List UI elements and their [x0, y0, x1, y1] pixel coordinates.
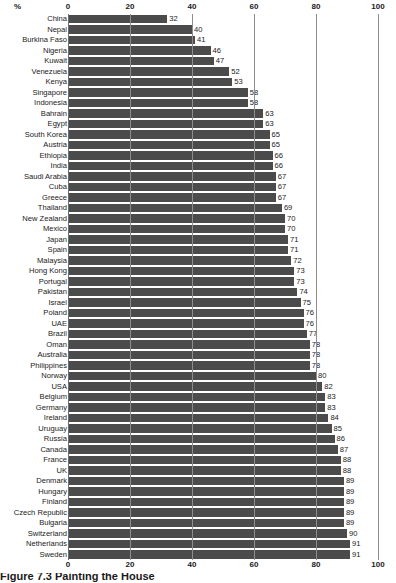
bar	[68, 246, 288, 254]
x-axis-tick-bottom-60: 60	[250, 560, 259, 569]
bar	[68, 109, 263, 117]
x-axis-tick-top-40: 40	[188, 2, 197, 11]
x-axis-tick-top-20: 20	[126, 2, 135, 11]
bar	[68, 508, 344, 516]
bar	[68, 477, 344, 485]
bar	[68, 298, 301, 306]
bar-row: Greece67	[0, 193, 396, 204]
category-label: Venezuela	[32, 67, 67, 78]
bar-value-label: 83	[327, 403, 335, 414]
bar-value-label: 40	[194, 25, 202, 36]
bar-value-label: 89	[346, 487, 354, 498]
category-label: Czech Republic	[14, 508, 67, 519]
category-label: Oman	[46, 340, 67, 351]
category-label: Singapore	[32, 88, 67, 99]
bar-row: New Zealand70	[0, 214, 396, 225]
category-label: Nigeria	[43, 46, 67, 57]
category-label: Sweden	[40, 550, 67, 561]
bar-value-label: 70	[287, 214, 295, 225]
bar	[68, 204, 282, 212]
bar-row: Uruguay85	[0, 424, 396, 435]
bar-value-label: 71	[290, 245, 298, 256]
bar-value-label: 65	[272, 130, 280, 141]
category-label: USA	[51, 382, 67, 393]
bar-row: Russia86	[0, 434, 396, 445]
bar-row: Cuba67	[0, 182, 396, 193]
category-label: Uruguay	[38, 424, 67, 435]
bar-row: Nepal40	[0, 25, 396, 36]
x-axis-tick-top-100: 100	[371, 2, 384, 11]
bar	[68, 67, 229, 75]
category-label: Netherlands	[26, 539, 67, 550]
bar	[68, 36, 195, 44]
bar-row: Portugal73	[0, 277, 396, 288]
bar-value-label: 88	[343, 466, 351, 477]
bar-row: UK88	[0, 466, 396, 477]
x-axis-tick-bottom-0: 0	[66, 560, 70, 569]
bar-row: Pakistan74	[0, 287, 396, 298]
bar-row: USA82	[0, 382, 396, 393]
x-axis-tick-bottom-80: 80	[312, 560, 321, 569]
category-label: Hungary	[38, 487, 67, 498]
x-axis-tick-top-80: 80	[312, 2, 321, 11]
bar	[68, 414, 328, 422]
category-label: Nepal	[47, 25, 67, 36]
bar-value-label: 46	[213, 46, 221, 57]
bar	[68, 382, 322, 390]
category-label: Canada	[40, 445, 67, 456]
category-label: UK	[56, 466, 67, 477]
category-label: Brazil	[48, 329, 67, 340]
category-label: Belgium	[40, 392, 67, 403]
category-label: Kenya	[45, 77, 67, 88]
bar	[68, 99, 248, 107]
bar	[68, 519, 344, 527]
bar-value-label: 89	[346, 518, 354, 529]
category-label: Indonesia	[34, 98, 67, 109]
x-axis-tick-top-0: 0	[66, 2, 70, 11]
bar-value-label: 90	[349, 529, 357, 540]
bar-row: Philippines78	[0, 361, 396, 372]
bar-value-label: 41	[197, 35, 205, 46]
bar-value-label: 88	[343, 455, 351, 466]
bar-row: Brazil77	[0, 329, 396, 340]
category-label: Ethiopia	[40, 151, 67, 162]
bar-value-label: 89	[346, 508, 354, 519]
plot-area: China32Nepal40Burkina Faso41Nigeria46Kuw…	[0, 14, 396, 560]
bar-value-label: 75	[303, 298, 311, 309]
bar-value-label: 89	[346, 497, 354, 508]
gridline-20	[130, 14, 131, 560]
bar-rows: China32Nepal40Burkina Faso41Nigeria46Kuw…	[0, 14, 396, 560]
bar-row: Poland76	[0, 308, 396, 319]
x-axis-tick-top-60: 60	[250, 2, 259, 11]
bar-value-label: 86	[337, 434, 345, 445]
bar-value-label: 63	[265, 119, 273, 130]
bar	[68, 267, 294, 275]
category-label: South Korea	[25, 130, 67, 141]
bar-row: Mexico70	[0, 224, 396, 235]
category-label: Greece	[42, 193, 67, 204]
bar-value-label: 53	[234, 77, 242, 88]
bar-row: Czech Republic89	[0, 508, 396, 519]
bar-row: Saudi Arabia67	[0, 172, 396, 183]
category-label: Australia	[37, 350, 67, 361]
category-label: Germany	[36, 403, 67, 414]
bar-row: Oman78	[0, 340, 396, 351]
bar-value-label: 66	[275, 151, 283, 162]
bar-row: Egypt63	[0, 119, 396, 130]
bar	[68, 487, 344, 495]
gridline-60	[254, 14, 255, 560]
gridline-100	[378, 14, 379, 560]
category-label: Japan	[46, 235, 67, 246]
x-axis-bottom: 020406080100	[0, 560, 396, 572]
category-label: New Zealand	[22, 214, 67, 225]
bar-row: Indonesia58	[0, 98, 396, 109]
bar	[68, 340, 310, 348]
x-axis-tick-bottom-20: 20	[126, 560, 135, 569]
category-label: Switzerland	[28, 529, 67, 540]
bar-value-label: 84	[330, 413, 338, 424]
bar	[68, 151, 273, 159]
bar	[68, 403, 325, 411]
bar	[68, 393, 325, 401]
bar-row: Spain71	[0, 245, 396, 256]
bar-value-label: 85	[334, 424, 342, 435]
